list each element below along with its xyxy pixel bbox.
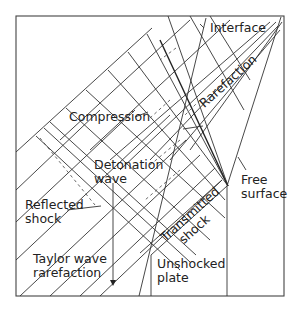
label-taylor-wave: Taylor wave rarefaction [33,252,107,280]
label-detonation-wave: Detonation wave [94,158,163,186]
label-detonation-line1: Detonation [94,158,163,172]
label-reflected-shock: Reflected shock [25,198,84,226]
label-free-surface: Free surface [241,173,287,201]
label-taylor-line2: rarefaction [33,266,107,280]
label-unshocked-line1: Unshocked [157,257,225,271]
label-free-line1: Free [241,173,287,187]
label-taylor-line1: Taylor wave [33,252,107,266]
label-free-line2: surface [241,187,287,201]
label-compression: Compression [69,110,150,124]
detonation-front [16,28,152,152]
label-unshocked-plate: Unshocked plate [157,257,225,285]
label-reflected-line2: shock [25,212,84,226]
label-unshocked-line2: plate [157,271,225,285]
label-detonation-line2: wave [94,172,163,186]
label-reflected-line1: Reflected [25,198,84,212]
falling-characteristics [36,16,250,270]
label-interface: Interface [210,21,266,35]
